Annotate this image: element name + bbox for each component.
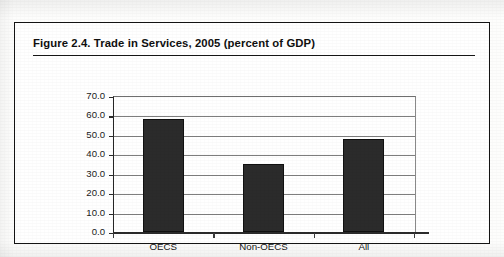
x-axis-tick-mark	[414, 233, 415, 238]
y-axis-tick-label: 50.0	[59, 130, 105, 140]
y-axis-tick-mark	[109, 136, 114, 137]
y-axis-tick-mark	[109, 194, 114, 195]
y-axis-tick-label: 40.0	[59, 149, 105, 159]
y-axis-tick-mark	[109, 175, 114, 176]
x-axis-tick-mark	[113, 233, 114, 238]
y-axis-tick-mark	[109, 155, 114, 156]
y-axis-tick-label: 0.0	[59, 227, 105, 237]
scanned-page: Figure 2.4. Trade in Services, 2005 (per…	[0, 0, 504, 257]
figure-title: Figure 2.4. Trade in Services, 2005 (per…	[33, 37, 463, 49]
x-axis-line	[113, 232, 429, 234]
x-axis-category-label: All	[358, 241, 369, 252]
y-axis-tick-mark	[109, 214, 114, 215]
gridline	[114, 116, 415, 117]
x-axis-category-label: OECS	[149, 241, 176, 252]
y-axis-tick-label: 60.0	[59, 111, 105, 121]
bar	[143, 119, 184, 232]
y-axis-tick-mark	[109, 116, 114, 117]
x-axis-tick-mark	[314, 233, 315, 238]
x-axis-tick-mark	[213, 233, 214, 238]
y-axis-tick-labels: 0.010.020.030.040.050.060.070.0	[55, 61, 105, 245]
bar-chart: 0.010.020.030.040.050.060.070.0 OECSNon-…	[15, 61, 491, 245]
bar	[243, 164, 284, 232]
y-axis-tick-label: 70.0	[59, 91, 105, 101]
x-axis-category-label: Non-OECS	[239, 241, 287, 252]
y-axis-tick-label: 20.0	[59, 188, 105, 198]
y-axis-tick-label: 10.0	[59, 208, 105, 218]
bar	[343, 139, 384, 232]
title-divider	[33, 55, 475, 56]
figure-frame: Figure 2.4. Trade in Services, 2005 (per…	[14, 22, 490, 244]
y-axis-tick-mark	[109, 97, 114, 98]
y-axis-tick-label: 30.0	[59, 169, 105, 179]
